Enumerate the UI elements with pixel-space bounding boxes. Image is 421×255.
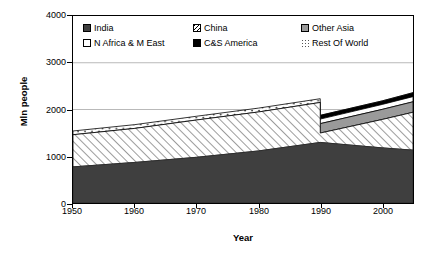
chart-figure: Mln people 4000 3000 2000 1000 0 — [0, 0, 421, 255]
legend-label: China — [204, 23, 228, 33]
x-axis-tick-label: 1990 — [301, 207, 341, 216]
x-axis-tick-label: 2000 — [363, 207, 403, 216]
y-axis-tick-label: 4000 — [32, 11, 66, 20]
x-axis-tick-label: 1980 — [239, 207, 279, 216]
legend-swatch-other-asia-icon — [301, 24, 309, 32]
legend-item-india[interactable]: India — [83, 23, 114, 33]
legend-label: N Africa & M East — [94, 38, 165, 48]
legend-item-cs-america[interactable]: C&S America — [193, 38, 258, 48]
legend-item-n-africa-m-east[interactable]: N Africa & M East — [83, 38, 165, 48]
legend-label: India — [94, 23, 114, 33]
legend-swatch-rest-of-world-icon — [301, 39, 309, 47]
y-axis-tick-label: 3000 — [32, 58, 66, 67]
legend-swatch-n-africa-m-east-icon — [83, 39, 91, 47]
y-axis-tick-label: 1000 — [32, 153, 66, 162]
legend-swatch-cs-america-icon — [193, 39, 201, 47]
x-axis-tick-label: 1960 — [114, 207, 154, 216]
legend-label: C&S America — [204, 38, 258, 48]
legend-label: Other Asia — [312, 23, 354, 33]
x-axis-title: Year — [72, 232, 414, 243]
x-axis-tick-label: 1950 — [52, 207, 92, 216]
legend-label: Rest Of World — [312, 38, 368, 48]
y-axis-title: Mln people — [18, 57, 29, 147]
legend-swatch-china-icon — [193, 24, 201, 32]
plot-area: India China Other Asia N Africa & M East… — [72, 15, 414, 204]
legend-swatch-india-icon — [83, 24, 91, 32]
legend-item-rest-of-world[interactable]: Rest Of World — [301, 38, 368, 48]
y-axis-tick-label: 2000 — [32, 106, 66, 115]
x-axis-tick-label: 1970 — [176, 207, 216, 216]
legend: India China Other Asia N Africa & M East… — [83, 23, 403, 53]
legend-item-china[interactable]: China — [193, 23, 228, 33]
legend-item-other-asia[interactable]: Other Asia — [301, 23, 354, 33]
